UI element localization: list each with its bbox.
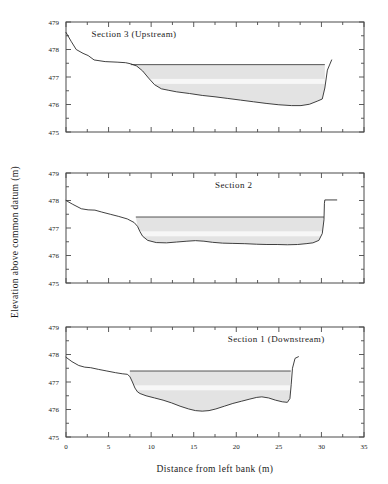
y-tick-label: 477 bbox=[49, 74, 60, 82]
panel-title-section-3: Section 3 (Upstream) bbox=[92, 29, 177, 39]
water-surface-band bbox=[66, 385, 364, 390]
y-tick-label: 476 bbox=[49, 252, 60, 260]
water-area-fill bbox=[130, 371, 291, 411]
y-tick-label: 475 bbox=[49, 280, 60, 288]
y-tick-label: 476 bbox=[49, 101, 60, 109]
figure-svg: 475476477478479Section 3 (Upstream)47547… bbox=[0, 0, 388, 484]
x-tick-label: 20 bbox=[233, 443, 241, 451]
y-tick-label: 476 bbox=[49, 406, 60, 414]
x-tick-label: 25 bbox=[275, 443, 283, 451]
panel-title-section-2: Section 2 bbox=[215, 180, 252, 190]
panel-section-3: 475476477478479Section 3 (Upstream) bbox=[49, 19, 365, 137]
y-tick-label: 475 bbox=[49, 129, 60, 137]
y-tick-label: 479 bbox=[49, 324, 60, 332]
x-tick-label: 30 bbox=[318, 443, 326, 451]
y-tick-label: 475 bbox=[49, 434, 60, 442]
y-tick-label: 477 bbox=[49, 225, 60, 233]
water-surface-band bbox=[66, 231, 364, 236]
y-axis-title: Elevation above common datum (m) bbox=[10, 166, 21, 318]
y-tick-label: 479 bbox=[49, 170, 60, 178]
water-area-fill bbox=[136, 217, 324, 245]
y-tick-label: 478 bbox=[49, 351, 60, 359]
y-tick-label: 477 bbox=[49, 379, 60, 387]
cross-section-figure: 475476477478479Section 3 (Upstream)47547… bbox=[0, 0, 388, 484]
x-tick-label: 5 bbox=[107, 443, 111, 451]
panel-section-1: 475476477478479Section 1 (Downstream) bbox=[49, 324, 365, 442]
y-tick-label: 478 bbox=[49, 197, 60, 205]
x-tick-label: 35 bbox=[361, 443, 369, 451]
x-tick-label: 15 bbox=[190, 443, 198, 451]
water-surface-band bbox=[66, 79, 364, 84]
panel-section-2: 475476477478479Section 2 bbox=[49, 170, 365, 288]
water-area-fill bbox=[131, 65, 325, 106]
x-tick-label: 0 bbox=[64, 443, 68, 451]
y-tick-label: 478 bbox=[49, 46, 60, 54]
x-tick-label: 10 bbox=[148, 443, 156, 451]
y-tick-label: 479 bbox=[49, 19, 60, 27]
panel-title-section-1: Section 1 (Downstream) bbox=[228, 334, 325, 344]
x-axis-title: Distance from left bank (m) bbox=[157, 464, 274, 475]
